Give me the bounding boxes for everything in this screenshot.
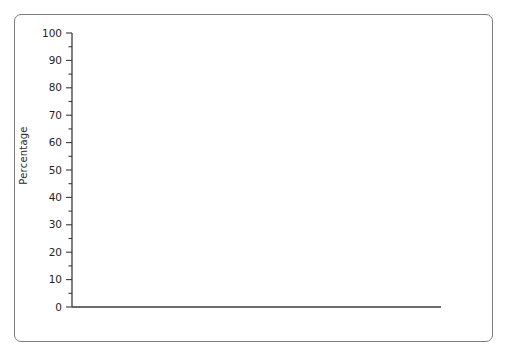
y-tick-label: 10: [49, 273, 62, 285]
y-tick-label: 60: [49, 136, 62, 148]
y-tick-label: 20: [49, 246, 62, 258]
y-tick-label: 30: [49, 218, 62, 230]
line-chart: 0102030405060708090100: [0, 0, 509, 357]
y-tick-label: 40: [49, 191, 62, 203]
y-tick-label: 80: [49, 81, 62, 93]
y-tick-label: 100: [42, 27, 62, 39]
y-tick-label: 70: [49, 109, 62, 121]
y-tick-label: 90: [49, 54, 62, 66]
y-tick-label: 0: [55, 301, 62, 313]
chart-container: Percentage 0102030405060708090100: [0, 0, 509, 357]
y-tick-label: 50: [49, 164, 62, 176]
